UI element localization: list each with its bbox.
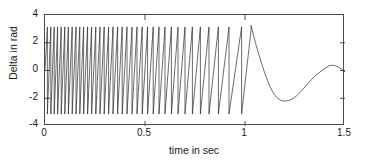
xtick-label-1p5: 1.5 — [324, 127, 364, 138]
figure: 4 2 0 -2 -4 0 0.5 1 1.5 Delta in rad tim… — [0, 0, 368, 163]
xtick-label-1: 1 — [224, 127, 264, 138]
ytick-label-neg2: -2 — [0, 92, 38, 102]
ytick-label-4: 4 — [0, 9, 38, 19]
xtick-label-0p5: 0.5 — [124, 127, 164, 138]
ytick-label-0: 0 — [0, 64, 38, 74]
plot-area — [44, 14, 344, 125]
tick-marks — [45, 15, 345, 126]
x-axis-label: time in sec — [44, 144, 344, 156]
ytick-label-2: 2 — [0, 36, 38, 46]
y-axis-label: Delta in rad — [7, 3, 19, 103]
data-series-delta — [45, 25, 345, 114]
plot-svg — [45, 15, 345, 126]
xtick-label-0: 0 — [24, 127, 64, 138]
